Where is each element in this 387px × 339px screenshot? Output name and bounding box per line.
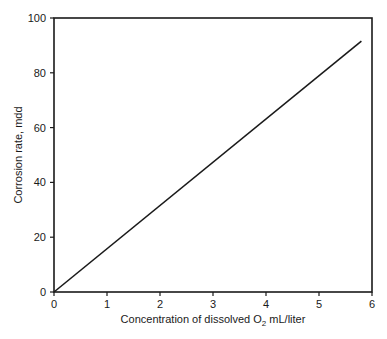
chart: 0123456 020406080100 Corrosion rate, mdd… [0, 0, 387, 339]
plot-frame [54, 18, 372, 292]
x-tick-label: 0 [51, 298, 57, 310]
y-axis-title: Corrosion rate, mdd [12, 106, 24, 203]
x-tick-label: 3 [210, 298, 216, 310]
x-axis-ticks: 0123456 [51, 292, 375, 310]
data-series [54, 41, 361, 292]
x-tick-label: 5 [316, 298, 322, 310]
y-tick-label: 20 [34, 231, 46, 243]
x-tick-label: 1 [104, 298, 110, 310]
x-tick-label: 2 [157, 298, 163, 310]
x-tick-label: 4 [263, 298, 269, 310]
y-tick-label: 40 [34, 176, 46, 188]
x-axis-title: Concentration of dissolved O2 mL/liter [121, 313, 306, 328]
y-tick-label: 0 [40, 286, 46, 298]
y-tick-label: 100 [28, 12, 46, 24]
series-line [54, 41, 361, 292]
y-tick-label: 80 [34, 67, 46, 79]
y-tick-label: 60 [34, 122, 46, 134]
y-axis-ticks: 020406080100 [28, 12, 54, 298]
x-tick-label: 6 [369, 298, 375, 310]
